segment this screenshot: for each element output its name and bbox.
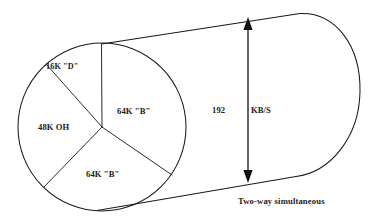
pie-label-overhead: 48K OH: [38, 123, 69, 132]
pie-label-d-channel: 16K "D": [46, 63, 78, 71]
dimension-arrow-head-top: [243, 17, 252, 30]
rate-unit-label: KB/S: [251, 106, 271, 115]
cylinder-right-cap: [296, 13, 360, 176]
figure-drawing: [0, 0, 373, 223]
pie-label-b-channel-right: 64K "B": [117, 107, 150, 116]
pie-divider-lower-right: [102, 127, 172, 175]
rate-value-label: 192: [212, 106, 225, 115]
figure-canvas: 16K "D" 48K OH 64K "B" 64K "B" 192 KB/S …: [0, 0, 373, 223]
pie-label-b-channel-lower: 64K "B": [86, 170, 119, 179]
dimension-arrow-head-bottom: [243, 170, 252, 183]
figure-caption: Two-way simultaneous: [238, 197, 325, 206]
pie-divider-upper-left: [46, 64, 102, 127]
pie-divider-top: [102, 44, 103, 127]
cylinder-top-edge: [102, 14, 301, 45]
